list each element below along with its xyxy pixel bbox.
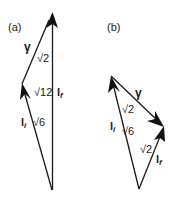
panel-b-gamma-magnitude: √2: [122, 103, 134, 115]
panel-a-gamma-magnitude: √2: [37, 52, 49, 64]
panel-b-lf-magnitude: √2: [140, 143, 152, 155]
panel-a-li-symbol: li: [21, 116, 27, 130]
panel-a-lf-magnitude: √12: [34, 86, 52, 98]
panel-b-gamma-symbol: γ: [135, 86, 142, 100]
panel-b-li-symbol: li: [110, 120, 116, 134]
panel-a-lf-symbol: lf: [57, 86, 64, 100]
panel-b-lf-symbol: lf: [156, 153, 163, 167]
panel-b-li-magnitude: √6: [122, 125, 134, 137]
panel-a: (a) γ √2 √12 lf li √6: [8, 12, 64, 190]
vector-diagram: (a) γ √2 √12 lf li √6 (b) γ √2 li √6: [0, 0, 174, 205]
panel-b-label: (b): [107, 21, 120, 33]
panel-b-lf-arrowhead: [154, 126, 165, 142]
panel-a-li-magnitude: √6: [33, 116, 45, 128]
panel-a-gamma-symbol: γ: [24, 40, 31, 54]
panel-b: (b) γ √2 li √6 √2 lf: [107, 21, 165, 189]
panel-a-li-vector: [24, 91, 52, 190]
panel-a-label: (a): [8, 21, 21, 33]
